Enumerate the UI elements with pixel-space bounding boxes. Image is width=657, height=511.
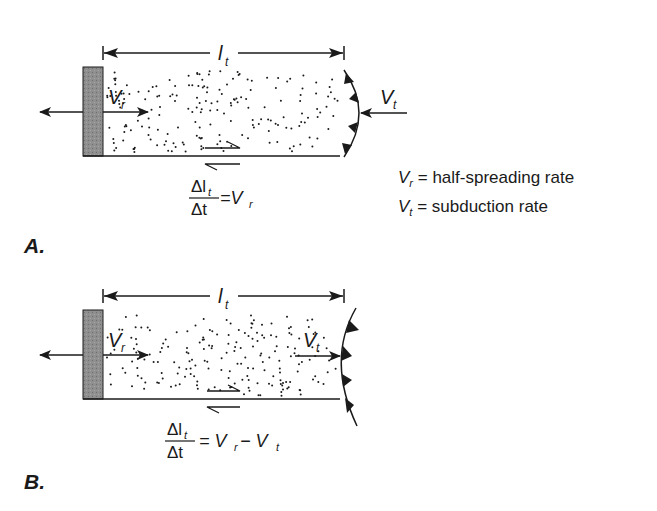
- legend-item-subduction-rate: Vt = subduction rate: [398, 195, 574, 224]
- length-label: l: [218, 42, 223, 64]
- diagram-canvas: l t V r V t: [0, 0, 657, 511]
- equation-denominator: Δt: [167, 443, 183, 462]
- ridge-velocity-subscript: r: [121, 98, 126, 112]
- legend-text: = half-spreading rate: [413, 168, 574, 187]
- panel-b: l t V r V t Δl t Δt: [40, 285, 359, 462]
- equation-rhs: =V: [220, 188, 245, 208]
- ridge-block: [83, 67, 103, 156]
- equation-rhs-subscript: r: [249, 198, 254, 210]
- equation-rhs-subscript-2: t: [276, 441, 280, 453]
- legend-symbol: V: [398, 197, 409, 216]
- trench-symbol: [342, 70, 359, 157]
- trench-symbol: [341, 308, 359, 426]
- ridge-block: [83, 310, 103, 399]
- length-label-subscript: t: [225, 298, 229, 312]
- equation-numerator: Δl: [167, 420, 182, 439]
- plate-length-dimension: l t: [103, 285, 344, 312]
- panel-label-a: A.: [24, 234, 45, 258]
- plate-length-dimension: l t: [103, 42, 344, 69]
- trench-velocity-subscript: t: [393, 98, 397, 112]
- legend: Vr = half-spreading rate Vt = subduction…: [398, 166, 574, 224]
- equation-numerator: Δl: [191, 177, 206, 196]
- ridge-velocity-subscript: r: [121, 341, 126, 355]
- legend-symbol: V: [398, 168, 409, 187]
- legend-text: = subduction rate: [412, 197, 548, 216]
- equation-rhs-minus: − V: [240, 431, 270, 451]
- legend-item-half-spreading-rate: Vr = half-spreading rate: [398, 166, 574, 195]
- equation-numerator-subscript: t: [184, 429, 188, 441]
- equation-denominator: Δt: [191, 200, 207, 219]
- equation-rhs: = V: [199, 431, 229, 451]
- trench-velocity-subscript: t: [316, 341, 320, 355]
- panel-a: l t V r V t: [40, 42, 407, 219]
- panel-label-b: B.: [24, 470, 45, 494]
- equation-b: Δl t Δt = V r − V t: [165, 420, 280, 462]
- length-label-subscript: t: [225, 55, 229, 69]
- equation-numerator-subscript: t: [208, 186, 212, 198]
- equation-a: Δl t Δt =V r: [189, 177, 254, 219]
- length-label: l: [218, 285, 223, 307]
- equation-rhs-subscript: r: [234, 441, 239, 453]
